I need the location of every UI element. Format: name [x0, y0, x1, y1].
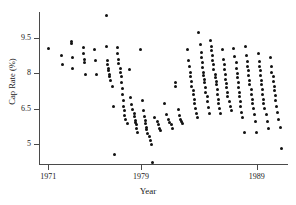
- data-point: [254, 120, 257, 123]
- data-point: [208, 112, 211, 115]
- data-point: [82, 52, 85, 55]
- data-point: [116, 46, 119, 49]
- data-point: [235, 61, 238, 64]
- data-point: [186, 48, 189, 51]
- data-point: [250, 93, 253, 96]
- data-point: [204, 91, 207, 94]
- data-point: [202, 74, 205, 77]
- data-point: [189, 71, 192, 74]
- data-point: [228, 100, 231, 103]
- data-point: [247, 74, 250, 77]
- data-point: [279, 126, 282, 129]
- data-point: [159, 129, 162, 132]
- data-point: [261, 88, 264, 91]
- data-point: [210, 49, 213, 52]
- data-point: [275, 105, 278, 108]
- data-point: [226, 91, 229, 94]
- data-point: [273, 89, 276, 92]
- data-point: [269, 56, 272, 59]
- data-point: [121, 87, 124, 90]
- data-point: [209, 39, 212, 42]
- data-point: [113, 153, 116, 156]
- data-point: [126, 122, 129, 125]
- data-point: [212, 68, 215, 71]
- data-point: [94, 59, 97, 62]
- data-point: [201, 61, 204, 64]
- y-axis-title: Cap Rate (%): [8, 32, 17, 132]
- data-point: [105, 14, 108, 17]
- data-point: [84, 73, 87, 76]
- data-point: [71, 56, 74, 59]
- data-point: [245, 54, 248, 57]
- data-point: [247, 69, 250, 72]
- data-point: [277, 118, 280, 121]
- data-point: [193, 98, 196, 101]
- data-point: [131, 108, 134, 111]
- data-point: [225, 86, 228, 89]
- data-point: [70, 42, 73, 45]
- data-point: [128, 68, 131, 71]
- data-point: [273, 85, 276, 88]
- data-point: [267, 127, 270, 130]
- data-point: [117, 62, 120, 65]
- data-point: [261, 93, 264, 96]
- data-point: [270, 65, 273, 68]
- data-point: [223, 68, 226, 71]
- data-point: [214, 76, 217, 79]
- data-point: [272, 80, 275, 83]
- data-point: [223, 63, 226, 66]
- data-point: [265, 113, 268, 116]
- data-point: [218, 107, 221, 110]
- data-point: [274, 94, 277, 97]
- data-point: [141, 99, 144, 102]
- data-point: [257, 52, 260, 55]
- x-axis-tick-label: 1989: [237, 172, 277, 181]
- data-point: [280, 147, 283, 150]
- data-point: [61, 63, 64, 66]
- data-point: [153, 116, 156, 119]
- data-point: [143, 115, 146, 118]
- data-point: [133, 115, 136, 118]
- data-point: [248, 83, 251, 86]
- data-point: [165, 113, 168, 116]
- data-point: [211, 54, 214, 57]
- data-point: [111, 85, 114, 88]
- data-point: [252, 107, 255, 110]
- data-point: [236, 76, 239, 79]
- data-point: [130, 103, 133, 106]
- data-point: [200, 56, 203, 59]
- data-point: [170, 123, 173, 126]
- data-point: [120, 75, 123, 78]
- data-point: [123, 114, 126, 117]
- data-point: [239, 105, 242, 108]
- data-point: [181, 122, 184, 125]
- data-point: [117, 58, 120, 61]
- data-point: [224, 78, 227, 81]
- data-point: [274, 99, 277, 102]
- data-point: [71, 67, 74, 70]
- data-point: [203, 81, 206, 84]
- data-point: [129, 96, 132, 99]
- y-axis-line: [39, 12, 40, 165]
- data-point: [258, 60, 261, 63]
- data-point: [178, 114, 181, 117]
- data-point: [262, 102, 265, 105]
- data-point: [246, 65, 249, 68]
- data-point: [262, 98, 265, 101]
- data-point: [206, 100, 209, 103]
- data-point: [148, 135, 151, 138]
- data-point: [225, 82, 228, 85]
- data-point: [189, 75, 192, 78]
- data-point: [258, 65, 261, 68]
- data-point: [145, 128, 148, 131]
- data-point: [235, 67, 238, 70]
- data-point: [260, 83, 263, 86]
- x-axis-tick-label: 1979: [121, 172, 161, 181]
- data-point: [199, 43, 202, 46]
- data-point: [259, 69, 262, 72]
- y-axis-tick: [34, 144, 39, 145]
- data-point: [144, 122, 147, 125]
- data-point: [219, 112, 222, 115]
- data-point: [244, 45, 247, 48]
- y-axis-tick: [34, 109, 39, 110]
